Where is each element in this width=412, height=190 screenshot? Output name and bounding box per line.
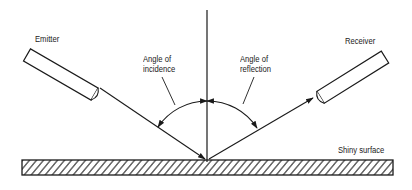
- receiver-label: Receiver: [345, 36, 375, 46]
- reflection-arc: [207, 101, 257, 128]
- shiny-surface: [22, 160, 393, 175]
- reflected-ray: [209, 98, 313, 159]
- reflection-leader: [243, 77, 254, 104]
- incidence-label-line2: incidence: [143, 64, 175, 74]
- emitter-device: [24, 49, 101, 102]
- emitter-label: Emitter: [35, 34, 59, 44]
- receiver-device: [314, 51, 388, 105]
- incident-ray: [100, 88, 205, 159]
- reflection-label-line2: reflection: [240, 64, 271, 74]
- incidence-label-line1: Angle of: [143, 54, 171, 64]
- incidence-arc: [158, 101, 207, 127]
- incidence-leader: [162, 77, 175, 105]
- surface-label: Shiny surface: [338, 145, 384, 155]
- diagram-graphics: [0, 0, 412, 190]
- reflection-label-line1: Angle of: [240, 54, 268, 64]
- reflection-diagram: Emitter Receiver Angle of incidence Angl…: [0, 0, 412, 190]
